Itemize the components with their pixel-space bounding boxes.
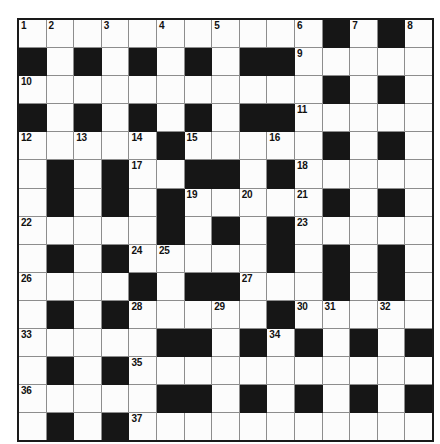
crossword-cell[interactable]: [101, 48, 129, 76]
crossword-cell[interactable]: [74, 385, 102, 413]
crossword-cell[interactable]: [405, 300, 433, 328]
crossword-cell[interactable]: [74, 244, 102, 272]
crossword-cell[interactable]: [101, 76, 129, 104]
crossword-cell[interactable]: [377, 48, 405, 76]
crossword-cell[interactable]: 19: [184, 188, 212, 216]
crossword-cell[interactable]: [350, 357, 378, 385]
crossword-cell[interactable]: [267, 76, 295, 104]
crossword-cell[interactable]: [129, 385, 157, 413]
crossword-cell[interactable]: [267, 272, 295, 300]
crossword-cell[interactable]: [377, 413, 405, 442]
crossword-cell[interactable]: [322, 216, 350, 244]
crossword-cell[interactable]: [101, 272, 129, 300]
crossword-cell[interactable]: [184, 19, 212, 48]
crossword-cell[interactable]: 36: [18, 385, 46, 413]
crossword-cell[interactable]: [267, 413, 295, 442]
crossword-cell[interactable]: [156, 104, 184, 132]
crossword-cell[interactable]: [101, 329, 129, 357]
crossword-cell[interactable]: 21: [294, 188, 322, 216]
crossword-cell[interactable]: [129, 188, 157, 216]
crossword-cell[interactable]: 28: [129, 300, 157, 328]
crossword-cell[interactable]: [156, 76, 184, 104]
crossword-cell[interactable]: 12: [18, 132, 46, 160]
crossword-cell[interactable]: [267, 357, 295, 385]
crossword-cell[interactable]: [267, 19, 295, 48]
crossword-cell[interactable]: 34: [267, 329, 295, 357]
crossword-cell[interactable]: 18: [294, 160, 322, 188]
crossword-cell[interactable]: [74, 300, 102, 328]
crossword-cell[interactable]: [101, 132, 129, 160]
crossword-cell[interactable]: [405, 104, 433, 132]
crossword-cell[interactable]: [322, 357, 350, 385]
crossword-cell[interactable]: 25: [156, 244, 184, 272]
crossword-cell[interactable]: [405, 357, 433, 385]
crossword-cell[interactable]: [294, 357, 322, 385]
crossword-cell[interactable]: [129, 216, 157, 244]
crossword-cell[interactable]: [405, 76, 433, 104]
crossword-cell[interactable]: [46, 76, 74, 104]
crossword-cell[interactable]: [350, 76, 378, 104]
crossword-cell[interactable]: [156, 48, 184, 76]
crossword-cell[interactable]: 5: [212, 19, 240, 48]
crossword-cell[interactable]: [322, 329, 350, 357]
crossword-cell[interactable]: 14: [129, 132, 157, 160]
crossword-cell[interactable]: [267, 188, 295, 216]
crossword-cell[interactable]: [405, 48, 433, 76]
crossword-cell[interactable]: [350, 413, 378, 442]
crossword-cell[interactable]: 10: [18, 76, 46, 104]
crossword-cell[interactable]: 13: [74, 132, 102, 160]
crossword-cell[interactable]: 7: [350, 19, 378, 48]
crossword-cell[interactable]: [184, 357, 212, 385]
crossword-cell[interactable]: [74, 216, 102, 244]
crossword-cell[interactable]: [405, 216, 433, 244]
crossword-cell[interactable]: [156, 413, 184, 442]
crossword-cell[interactable]: 9: [294, 48, 322, 76]
crossword-cell[interactable]: [18, 413, 46, 442]
crossword-cell[interactable]: [294, 413, 322, 442]
crossword-cell[interactable]: [322, 104, 350, 132]
crossword-cell[interactable]: [74, 272, 102, 300]
crossword-cell[interactable]: [405, 132, 433, 160]
crossword-cell[interactable]: 20: [239, 188, 267, 216]
crossword-cell[interactable]: [101, 385, 129, 413]
crossword-cell[interactable]: [239, 19, 267, 48]
crossword-cell[interactable]: [405, 272, 433, 300]
crossword-cell[interactable]: [267, 385, 295, 413]
crossword-cell[interactable]: [294, 244, 322, 272]
crossword-cell[interactable]: [129, 76, 157, 104]
crossword-cell[interactable]: 27: [239, 272, 267, 300]
crossword-cell[interactable]: 35: [129, 357, 157, 385]
crossword-cell[interactable]: [239, 76, 267, 104]
crossword-cell[interactable]: [184, 76, 212, 104]
crossword-cell[interactable]: [377, 104, 405, 132]
crossword-cell[interactable]: [377, 357, 405, 385]
crossword-cell[interactable]: [18, 244, 46, 272]
crossword-cell[interactable]: [184, 216, 212, 244]
crossword-cell[interactable]: [294, 272, 322, 300]
crossword-cell[interactable]: [74, 188, 102, 216]
crossword-cell[interactable]: 2: [46, 19, 74, 48]
crossword-cell[interactable]: [212, 48, 240, 76]
crossword-cell[interactable]: [74, 329, 102, 357]
crossword-cell[interactable]: [294, 76, 322, 104]
crossword-cell[interactable]: [212, 413, 240, 442]
crossword-cell[interactable]: [18, 357, 46, 385]
crossword-cell[interactable]: [212, 329, 240, 357]
crossword-cell[interactable]: 23: [294, 216, 322, 244]
crossword-cell[interactable]: 15: [184, 132, 212, 160]
crossword-cell[interactable]: [405, 160, 433, 188]
crossword-cell[interactable]: 6: [294, 19, 322, 48]
crossword-cell[interactable]: [377, 216, 405, 244]
crossword-cell[interactable]: [377, 329, 405, 357]
crossword-cell[interactable]: 30: [294, 300, 322, 328]
crossword-cell[interactable]: [212, 244, 240, 272]
crossword-cell[interactable]: [405, 413, 433, 442]
crossword-cell[interactable]: 11: [294, 104, 322, 132]
crossword-cell[interactable]: 22: [18, 216, 46, 244]
crossword-cell[interactable]: 3: [101, 19, 129, 48]
crossword-cell[interactable]: [74, 160, 102, 188]
crossword-cell[interactable]: [322, 385, 350, 413]
crossword-cell[interactable]: [239, 300, 267, 328]
crossword-cell[interactable]: [212, 104, 240, 132]
crossword-cell[interactable]: [350, 216, 378, 244]
